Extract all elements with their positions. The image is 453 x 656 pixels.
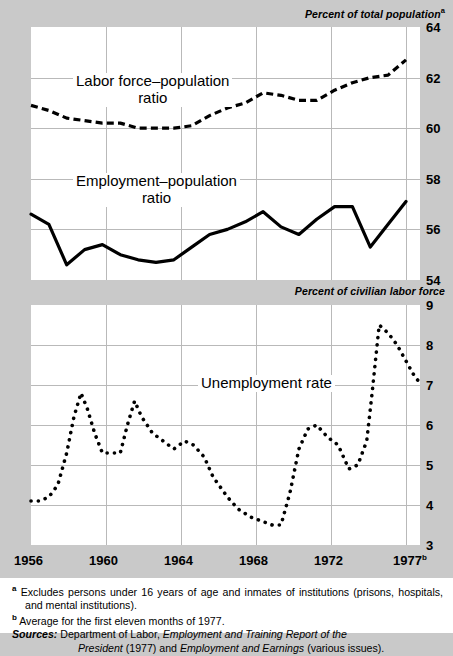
bottom-panel-header: Percent of civilian labor force — [295, 285, 445, 297]
xtick-1956: 1956 — [14, 553, 43, 568]
bottom-ytick-3: 3 — [426, 538, 433, 553]
xtick-1964: 1964 — [164, 553, 193, 568]
employment-population-ratio-label: Employment–population ratio — [73, 173, 240, 207]
xtick-1972: 1972 — [314, 553, 343, 568]
sources-italic-3: Employment and Earnings — [180, 642, 304, 654]
top-panel-header: Percent of total populationa — [305, 6, 445, 20]
bottom-ytick-6: 6 — [426, 418, 433, 433]
labor-force-population-ratio-label: Labor force–population ratio — [73, 73, 232, 107]
unemployment-rate-label: Unemployment rate — [198, 375, 335, 392]
sources-text-part3: (various issues). — [307, 642, 384, 654]
sources-italic-1: Employment and Training Report of the — [163, 628, 347, 640]
top-ytick-56: 56 — [426, 222, 440, 237]
footnote-marker-a: a — [441, 6, 445, 15]
xtick-1968: 1968 — [239, 553, 268, 568]
footnote-b: b Average for the first eleven months of… — [12, 613, 443, 628]
top-ytick-58: 58 — [426, 172, 440, 187]
labor-force-population-ratio-label-line1: Labor force–population — [76, 72, 229, 89]
xtick-1977: 1977b — [393, 553, 427, 568]
top-panel-header-text: Percent of total population — [305, 8, 441, 20]
bottom-panel-plot: Unemployment rate — [31, 305, 420, 545]
sources-label: Sources: — [12, 628, 57, 640]
bottom-ytick-4: 4 — [426, 498, 433, 513]
sources-continuation: President (1977) and Employment and Earn… — [12, 642, 443, 656]
sources-text-part2: (1977) and — [126, 642, 177, 654]
footnote-a-text: Excludes persons under 16 years of age a… — [21, 586, 443, 612]
footnotes-block: a Excludes persons under 16 years of age… — [0, 578, 453, 633]
bottom-ytick-8: 8 — [426, 338, 433, 353]
footnote-marker-b: b — [422, 553, 427, 562]
labor-force-population-ratio-label-line2: ratio — [138, 89, 167, 106]
sources-text-part1: Department of Labor, — [60, 628, 160, 640]
employment-population-ratio-line — [31, 202, 406, 265]
bottom-ytick-5: 5 — [426, 458, 433, 473]
footnote-a: a Excludes persons under 16 years of age… — [12, 584, 443, 613]
xtick-1977-text: 1977 — [393, 553, 422, 568]
top-ytick-64: 64 — [426, 20, 440, 35]
unemployment-rate-label-text: Unemployment rate — [201, 374, 332, 391]
xtick-1960: 1960 — [89, 553, 118, 568]
sources-note: Sources: Department of Labor, Employment… — [12, 628, 443, 656]
bottom-panel-series-svg — [31, 305, 420, 545]
sources-italic-2: President — [78, 642, 123, 654]
footnote-a-marker: a — [12, 584, 16, 593]
top-panel-series-svg — [31, 27, 420, 280]
footnote-b-text: Average for the first eleven months of 1… — [19, 615, 224, 627]
unemployment-rate-line — [31, 325, 422, 525]
bottom-ytick-9: 9 — [426, 298, 433, 313]
employment-population-ratio-label-line2: ratio — [142, 189, 171, 206]
employment-population-ratio-label-line1: Employment–population — [76, 172, 237, 189]
top-ytick-60: 60 — [426, 121, 440, 136]
bottom-ytick-7: 7 — [426, 378, 433, 393]
top-panel-plot: Labor force–population ratio Employment–… — [31, 27, 420, 280]
top-ytick-62: 62 — [426, 71, 440, 86]
footnote-b-marker: b — [12, 613, 17, 622]
